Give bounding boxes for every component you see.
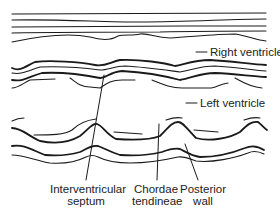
label-chordae-line2: tendineae — [132, 195, 180, 207]
posterior-wall-leader — [185, 144, 198, 180]
label-septum-line1: Interventricular — [50, 183, 122, 195]
label-septum-line2: septum — [50, 195, 122, 207]
label-right-ventricle: Right ventricle — [210, 46, 280, 58]
label-interventricular-septum: Interventricular septum — [50, 183, 122, 207]
label-left-ventricle: Left ventricle — [200, 97, 265, 109]
label-chordae-line1: Chordae — [132, 183, 180, 195]
label-posterior-wall: Posterior wall — [180, 183, 226, 207]
posterior-wall-lines — [12, 118, 267, 164]
label-chordae-tendineae: Chordae tendineae — [132, 183, 180, 207]
septum-right-side-lines — [12, 60, 266, 88]
label-posterior-line2: wall — [180, 195, 226, 207]
leader-lines — [86, 52, 207, 180]
chest-wall-lines — [12, 13, 266, 42]
label-posterior-line1: Posterior — [180, 183, 226, 195]
